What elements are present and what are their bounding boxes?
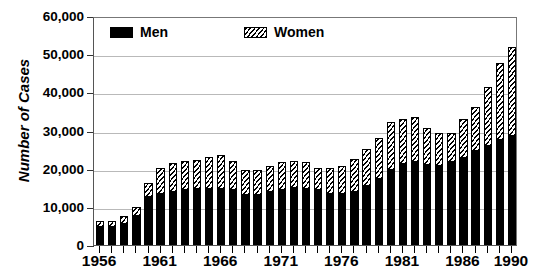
- bar-segment-men[interactable]: [459, 158, 467, 245]
- bar-segment-men[interactable]: [496, 140, 504, 245]
- bar-group[interactable]: [181, 16, 189, 245]
- bar-group[interactable]: [314, 16, 322, 245]
- bar-segment-men[interactable]: [290, 188, 298, 245]
- bar-group[interactable]: [508, 16, 516, 245]
- bar-segment-women[interactable]: [266, 166, 274, 192]
- bar-segment-women[interactable]: [181, 161, 189, 189]
- bar-group[interactable]: [423, 16, 431, 245]
- bar-segment-men[interactable]: [132, 216, 140, 245]
- bar-segment-women[interactable]: [229, 161, 237, 189]
- bar-segment-men[interactable]: [181, 190, 189, 245]
- bar-segment-men[interactable]: [253, 195, 261, 245]
- bar-group[interactable]: [375, 16, 383, 245]
- bar-group[interactable]: [290, 16, 298, 245]
- bar-segment-women[interactable]: [253, 170, 261, 195]
- bar-group[interactable]: [278, 16, 286, 245]
- bar-segment-men[interactable]: [229, 190, 237, 245]
- bar-segment-women[interactable]: [435, 133, 443, 166]
- bar-group[interactable]: [169, 16, 177, 245]
- bar-segment-men[interactable]: [447, 162, 455, 245]
- bar-segment-men[interactable]: [411, 162, 419, 245]
- bar-segment-men[interactable]: [375, 179, 383, 245]
- bar-segment-women[interactable]: [375, 138, 383, 178]
- bar-segment-women[interactable]: [144, 183, 152, 197]
- bar-group[interactable]: [120, 16, 128, 245]
- bar-group[interactable]: [205, 16, 213, 245]
- bar-segment-women[interactable]: [241, 170, 249, 196]
- bar-group[interactable]: [459, 16, 467, 245]
- bar-group[interactable]: [96, 16, 104, 245]
- bar-segment-men[interactable]: [217, 189, 225, 245]
- bar-segment-women[interactable]: [326, 168, 334, 194]
- bar-segment-women[interactable]: [169, 163, 177, 192]
- bar-segment-women[interactable]: [496, 63, 504, 140]
- bar-group[interactable]: [411, 16, 419, 245]
- bar-segment-women[interactable]: [96, 221, 104, 227]
- bar-segment-women[interactable]: [290, 161, 298, 188]
- bar-group[interactable]: [484, 16, 492, 245]
- bar-segment-women[interactable]: [387, 122, 395, 170]
- bar-segment-women[interactable]: [362, 149, 370, 186]
- bar-group[interactable]: [435, 16, 443, 245]
- bar-segment-women[interactable]: [278, 162, 286, 191]
- bar-segment-women[interactable]: [411, 117, 419, 162]
- bar-group[interactable]: [156, 16, 164, 245]
- bar-group[interactable]: [496, 16, 504, 245]
- bar-segment-women[interactable]: [302, 162, 310, 188]
- bar-segment-women[interactable]: [484, 87, 492, 146]
- bar-segment-men[interactable]: [484, 146, 492, 245]
- bar-segment-women[interactable]: [193, 160, 201, 189]
- bar-segment-women[interactable]: [338, 166, 346, 194]
- bar-segment-men[interactable]: [169, 192, 177, 245]
- bar-group[interactable]: [447, 16, 455, 245]
- bar-segment-women[interactable]: [508, 47, 516, 137]
- bar-group[interactable]: [471, 16, 479, 245]
- bar-segment-women[interactable]: [120, 216, 128, 224]
- bar-group[interactable]: [399, 16, 407, 245]
- bar-segment-men[interactable]: [120, 224, 128, 245]
- bar-group[interactable]: [229, 16, 237, 245]
- bar-segment-men[interactable]: [387, 170, 395, 245]
- bar-group[interactable]: [387, 16, 395, 245]
- bar-group[interactable]: [241, 16, 249, 245]
- bar-segment-men[interactable]: [338, 194, 346, 245]
- bar-segment-men[interactable]: [278, 190, 286, 245]
- bar-segment-women[interactable]: [459, 119, 467, 158]
- bar-group[interactable]: [338, 16, 346, 245]
- bar-segment-men[interactable]: [144, 197, 152, 245]
- bar-segment-women[interactable]: [217, 155, 225, 190]
- bar-group[interactable]: [193, 16, 201, 245]
- bar-segment-men[interactable]: [423, 165, 431, 245]
- bar-segment-men[interactable]: [205, 189, 213, 245]
- bar-group[interactable]: [132, 16, 140, 245]
- bar-segment-women[interactable]: [350, 159, 358, 192]
- bar-segment-women[interactable]: [471, 107, 479, 151]
- bar-segment-men[interactable]: [471, 151, 479, 245]
- bar-segment-men[interactable]: [314, 190, 322, 245]
- bar-group[interactable]: [108, 16, 116, 245]
- bar-segment-women[interactable]: [132, 207, 140, 216]
- bar-group[interactable]: [326, 16, 334, 245]
- bar-group[interactable]: [217, 16, 225, 245]
- bar-segment-women[interactable]: [447, 133, 455, 162]
- bar-segment-men[interactable]: [108, 227, 116, 245]
- bar-segment-women[interactable]: [423, 128, 431, 165]
- bar-segment-women[interactable]: [108, 221, 116, 227]
- bar-segment-women[interactable]: [314, 168, 322, 190]
- bar-segment-men[interactable]: [399, 164, 407, 245]
- bar-group[interactable]: [266, 16, 274, 245]
- bar-segment-men[interactable]: [435, 166, 443, 245]
- bar-segment-men[interactable]: [362, 186, 370, 245]
- bar-segment-men[interactable]: [156, 194, 164, 245]
- bar-segment-women[interactable]: [156, 168, 164, 194]
- bar-segment-women[interactable]: [399, 119, 407, 164]
- bar-segment-women[interactable]: [205, 157, 213, 188]
- bar-segment-men[interactable]: [241, 195, 249, 245]
- bar-segment-men[interactable]: [193, 189, 201, 245]
- bar-group[interactable]: [302, 16, 310, 245]
- bar-segment-men[interactable]: [326, 194, 334, 245]
- bar-segment-men[interactable]: [350, 192, 358, 245]
- bar-group[interactable]: [362, 16, 370, 245]
- bar-segment-men[interactable]: [508, 136, 516, 245]
- bar-segment-men[interactable]: [266, 192, 274, 245]
